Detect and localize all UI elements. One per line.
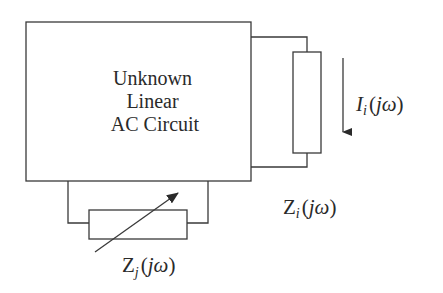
zj-left-wire (68, 181, 89, 223)
impedance-zj-variable-resistor (89, 210, 187, 239)
block-label-line-3: AC Circuit (111, 113, 200, 135)
block-label-line-2: Linear (126, 90, 179, 112)
impedance-zj-label: Zj(jω) (122, 253, 175, 280)
block-label: Unknown Linear AC Circuit (111, 67, 200, 135)
zj-right-wire (187, 181, 208, 223)
zi-top-wire (251, 37, 307, 52)
zi-bottom-wire (251, 153, 307, 167)
block-label-line-1: Unknown (113, 67, 192, 89)
current-ii-label: Ii(jω) (355, 92, 404, 118)
impedance-zi-label: Zi(jω) (283, 195, 336, 221)
impedance-zi-resistor (293, 52, 321, 153)
circuit-diagram: Unknown Linear AC Circuit Ii(jω) Zi(jω) … (0, 0, 443, 293)
